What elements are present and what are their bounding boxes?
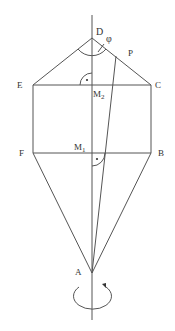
label-E: E	[17, 80, 23, 90]
label-A: A	[75, 267, 82, 277]
right-angle-dot-M2	[86, 79, 88, 81]
edge-DC	[92, 38, 151, 85]
right-angle-arc-M1	[92, 153, 105, 166]
label-M1: M1	[74, 142, 86, 154]
label-D: D	[96, 26, 103, 37]
label-B: B	[158, 148, 164, 158]
right-angle-dot-M1	[96, 158, 98, 160]
label-F: F	[19, 148, 24, 158]
edge-DE	[33, 38, 92, 85]
right-angle-arc-M2	[80, 73, 92, 85]
label-M2: M2	[93, 89, 105, 101]
label-C: C	[155, 80, 161, 90]
label-P: P	[128, 48, 133, 58]
geometry-diagram: D φ P E C M2 M1 F B A	[0, 0, 175, 331]
edge-FA	[33, 153, 92, 273]
label-phi: φ	[106, 33, 112, 44]
rotation-arrowhead-icon	[102, 283, 106, 288]
edge-BA	[92, 153, 151, 273]
